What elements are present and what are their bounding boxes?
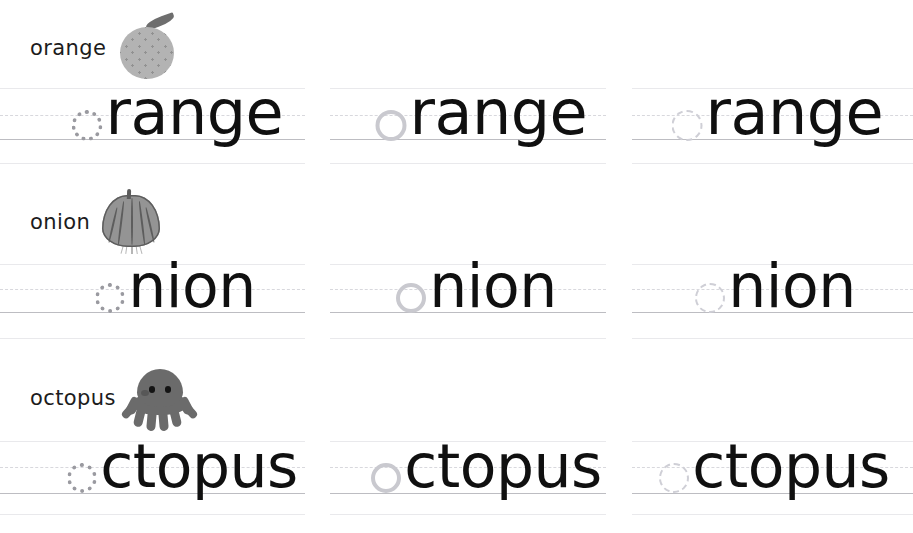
word-remainder: range (409, 76, 587, 149)
trace-ring-icon (659, 463, 689, 493)
word-remainder: nion (429, 251, 556, 321)
word-row-onion: onion (0, 176, 913, 351)
row-label: onion (30, 212, 90, 233)
row-header-orange: orange (30, 18, 186, 78)
trace-ring-icon (67, 463, 97, 493)
word-row-orange: orange orange (0, 0, 913, 175)
trace-word[interactable]: onion (692, 256, 856, 316)
octopus-eye-icon (165, 386, 172, 393)
rule-bottom-line (330, 514, 606, 515)
onion-tip-shape (127, 189, 131, 199)
orange-texture-shape (120, 27, 174, 79)
word-remainder: range (705, 76, 883, 149)
practice-lines-onion: onion onion onion (0, 264, 913, 340)
octopus-icon (124, 363, 196, 433)
trace-column-2-octopus[interactable]: octopus (330, 441, 606, 515)
trace-column-3-octopus[interactable]: octopus (632, 441, 913, 515)
row-header-onion: onion (30, 192, 170, 252)
trace-ring-icon (375, 110, 406, 141)
trace-word[interactable]: orange (668, 82, 883, 144)
rule-bottom-line (632, 514, 913, 515)
trace-word[interactable]: octopus (64, 436, 298, 496)
trace-word[interactable]: octopus (368, 436, 602, 496)
trace-column-2-orange[interactable]: orange (330, 88, 606, 164)
trace-column-1-onion[interactable]: onion (0, 264, 305, 340)
lead-letter-o[interactable]: o (692, 256, 728, 316)
trace-ring-icon (695, 283, 725, 313)
orange-icon (114, 13, 186, 83)
practice-lines-octopus: octopus octopus octopus (0, 441, 913, 515)
lead-letter-o[interactable]: o (92, 256, 128, 316)
lead-letter-o[interactable]: o (668, 82, 705, 144)
word-remainder: ctopus (100, 431, 298, 501)
row-label: orange (30, 38, 106, 59)
trace-word[interactable]: onion (393, 256, 557, 316)
word-remainder: ctopus (404, 431, 602, 501)
trace-column-3-orange[interactable]: orange (632, 88, 913, 164)
lead-letter-o[interactable]: o (368, 436, 404, 496)
word-remainder: nion (128, 251, 255, 321)
trace-word[interactable]: octopus (656, 436, 890, 496)
row-label: octopus (30, 388, 116, 409)
rule-bottom-line (0, 163, 305, 164)
lead-letter-o[interactable]: o (64, 436, 100, 496)
rule-bottom-line (0, 514, 305, 515)
worksheet-sheet: orange orange (0, 0, 913, 533)
lead-letter-o[interactable]: o (393, 256, 429, 316)
octopus-eye-icon (149, 386, 156, 393)
rule-bottom-line (632, 163, 913, 164)
lead-letter-o[interactable]: o (656, 436, 692, 496)
lead-letter-o[interactable]: o (372, 82, 409, 144)
lead-letter-o[interactable]: o (68, 82, 105, 144)
word-remainder: ctopus (692, 431, 890, 501)
rule-bottom-line (0, 338, 305, 339)
octopus-head-shape (137, 369, 183, 407)
rule-bottom-line (632, 338, 913, 339)
word-row-octopus: octopus (0, 352, 913, 533)
rule-bottom-line (330, 338, 606, 339)
trace-word[interactable]: orange (68, 82, 283, 144)
trace-ring-icon (671, 110, 702, 141)
trace-ring-icon (95, 283, 125, 313)
octopus-blush-shape (141, 390, 149, 396)
trace-column-3-onion[interactable]: onion (632, 264, 913, 340)
practice-lines-orange: orange orange orange (0, 88, 913, 164)
trace-ring-icon (396, 283, 426, 313)
word-remainder: nion (728, 251, 855, 321)
row-header-octopus: octopus (30, 368, 196, 428)
onion-icon (98, 187, 170, 257)
word-remainder: range (105, 76, 283, 149)
trace-column-2-onion[interactable]: onion (330, 264, 606, 340)
trace-word[interactable]: onion (92, 256, 256, 316)
rule-bottom-line (330, 163, 606, 164)
trace-column-1-orange[interactable]: orange (0, 88, 305, 164)
trace-ring-icon (371, 463, 401, 493)
onion-segment-line (131, 198, 133, 245)
trace-word[interactable]: orange (372, 82, 587, 144)
trace-column-1-octopus[interactable]: octopus (0, 441, 305, 515)
trace-ring-icon (71, 110, 102, 141)
